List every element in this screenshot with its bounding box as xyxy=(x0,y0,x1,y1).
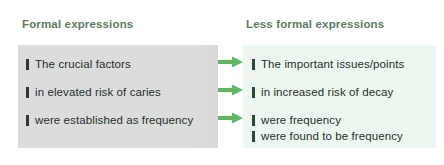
list-item: in increased risk of decay xyxy=(252,85,393,100)
right-arrow-icon xyxy=(218,84,244,96)
formality-comparison-figure: Formal expressions Less formal expressio… xyxy=(0,0,444,165)
bar-bullet-icon xyxy=(252,59,255,70)
bar-bullet-icon xyxy=(252,87,255,98)
list-item: were established as frequency xyxy=(26,113,193,128)
list-item-label: in elevated risk of caries xyxy=(35,85,161,100)
column-heading-formal: Formal expressions xyxy=(22,18,133,30)
list-item: The crucial factors xyxy=(26,57,131,72)
list-item-label: in increased risk of decay xyxy=(261,85,393,100)
bar-bullet-icon xyxy=(252,115,255,126)
list-item: were frequency xyxy=(252,113,341,128)
list-item-label: The crucial factors xyxy=(35,57,131,72)
list-item-label: The important issues/points xyxy=(261,57,404,72)
less-formal-expressions-panel: The important issues/points in increased… xyxy=(243,45,436,148)
bar-bullet-icon xyxy=(26,59,29,70)
right-arrow-icon xyxy=(218,56,244,68)
list-item: The important issues/points xyxy=(252,57,404,72)
list-item-label: were found to be frequency xyxy=(261,129,403,144)
list-item: in elevated risk of caries xyxy=(26,85,161,100)
right-arrow-icon xyxy=(218,112,244,124)
bar-bullet-icon xyxy=(26,87,29,98)
list-item-label: were established as frequency xyxy=(35,113,193,128)
list-item-label: were frequency xyxy=(261,113,341,128)
bar-bullet-icon xyxy=(26,115,29,126)
list-item: were found to be frequency xyxy=(252,129,403,144)
formal-expressions-panel: The crucial factors in elevated risk of … xyxy=(18,45,218,148)
column-heading-less-formal: Less formal expressions xyxy=(246,18,384,30)
bar-bullet-icon xyxy=(252,131,255,142)
